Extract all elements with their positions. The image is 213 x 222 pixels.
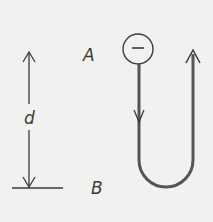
u-shaped-path [139, 54, 193, 187]
distance-arrow: d [23, 52, 35, 187]
label-a: A [82, 45, 95, 65]
label-b: B [91, 178, 103, 198]
negative-charge [123, 34, 153, 64]
diagram-canvas: d B A [0, 0, 213, 222]
distance-label: d [24, 108, 35, 128]
